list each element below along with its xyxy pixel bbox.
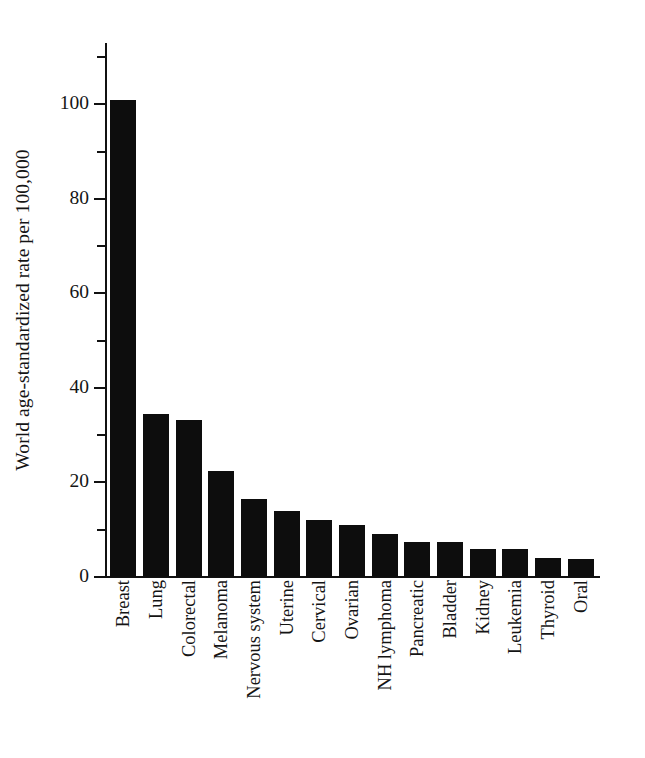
y-tick-major: 0 [94, 576, 105, 578]
bar-slot [241, 43, 267, 577]
x-tick-label: Leukemia [506, 580, 525, 654]
bar[interactable] [241, 499, 267, 577]
x-label-slot: Leukemia [499, 580, 532, 755]
x-tick-label: Oral [571, 580, 590, 613]
x-label-slot: Melanoma [205, 580, 238, 755]
plot-area: 020406080100 [105, 43, 600, 577]
y-tick-minor [97, 245, 105, 247]
y-axis-label: World age-standardized rate per 100,000 [12, 149, 34, 470]
bar[interactable] [404, 542, 430, 577]
x-label-slot: Kidney [466, 580, 499, 755]
x-label-slot: Nervous system [238, 580, 271, 755]
x-tick-label: Lung [147, 580, 166, 619]
x-tick-label: Kidney [473, 580, 492, 634]
bar-slot [306, 43, 332, 577]
y-tick-minor [97, 529, 105, 531]
x-label-slot: Lung [140, 580, 173, 755]
x-tick-label: Bladder [441, 580, 460, 639]
y-tick-major: 100 [94, 103, 105, 105]
bar[interactable] [143, 414, 169, 577]
bar-slot [535, 43, 561, 577]
y-tick-label: 40 [70, 377, 90, 397]
x-tick-label: Nervous system [245, 580, 264, 699]
x-tick-label: Ovarian [343, 580, 362, 640]
bar-slot [339, 43, 365, 577]
y-tick-minor [97, 56, 105, 58]
bar-chart-figure: World age-standardized rate per 100,000 … [0, 0, 645, 758]
y-axis-label-container: World age-standardized rate per 100,000 [0, 0, 46, 620]
y-tick-major: 20 [94, 481, 105, 483]
bar-slot [568, 43, 594, 577]
bars-container [107, 43, 597, 577]
x-label-slot: Thyroid [532, 580, 565, 755]
y-tick-label: 60 [70, 283, 90, 303]
bar[interactable] [339, 525, 365, 577]
bar[interactable] [306, 520, 332, 577]
bar[interactable] [568, 559, 594, 577]
x-label-slot: Bladder [434, 580, 467, 755]
bar[interactable] [274, 511, 300, 577]
x-label-slot: NH lymphoma [368, 580, 401, 755]
bar-slot [143, 43, 169, 577]
bar[interactable] [372, 534, 398, 577]
x-tick-label: Cervical [310, 580, 329, 643]
bar-slot [208, 43, 234, 577]
bar-slot [110, 43, 136, 577]
y-tick-label: 20 [70, 472, 90, 492]
y-tick-label: 0 [79, 566, 89, 586]
bar[interactable] [535, 558, 561, 577]
bar-slot [404, 43, 430, 577]
x-tick-label: Pancreatic [408, 580, 427, 657]
bar-slot [437, 43, 463, 577]
y-tick-major: 80 [94, 198, 105, 200]
y-tick-major: 60 [94, 292, 105, 294]
x-tick-label: Thyroid [539, 580, 558, 640]
bar[interactable] [208, 471, 234, 577]
bar[interactable] [110, 100, 136, 577]
y-tick-minor [97, 340, 105, 342]
x-tick-label: Uterine [277, 580, 296, 635]
x-axis-tick-labels: BreastLungColorectalMelanomaNervous syst… [107, 580, 597, 755]
y-tick-label: 100 [60, 93, 89, 113]
bar[interactable] [176, 420, 202, 577]
y-tick-minor [97, 434, 105, 436]
x-label-slot: Colorectal [172, 580, 205, 755]
bar-slot [470, 43, 496, 577]
bar-slot [502, 43, 528, 577]
x-label-slot: Ovarian [336, 580, 369, 755]
x-label-slot: Pancreatic [401, 580, 434, 755]
x-tick-label: Melanoma [212, 580, 231, 659]
x-label-slot: Uterine [270, 580, 303, 755]
bar[interactable] [470, 549, 496, 577]
y-tick-major: 40 [94, 387, 105, 389]
y-tick-label: 80 [70, 188, 90, 208]
bar[interactable] [502, 549, 528, 577]
x-label-slot: Oral [564, 580, 597, 755]
x-tick-label: Breast [114, 580, 133, 627]
bar-slot [372, 43, 398, 577]
bar-slot [274, 43, 300, 577]
x-tick-label: NH lymphoma [375, 580, 394, 690]
x-label-slot: Breast [107, 580, 140, 755]
bar[interactable] [437, 542, 463, 577]
x-tick-label: Colorectal [179, 580, 198, 657]
x-label-slot: Cervical [303, 580, 336, 755]
y-tick-minor [97, 151, 105, 153]
bar-slot [176, 43, 202, 577]
